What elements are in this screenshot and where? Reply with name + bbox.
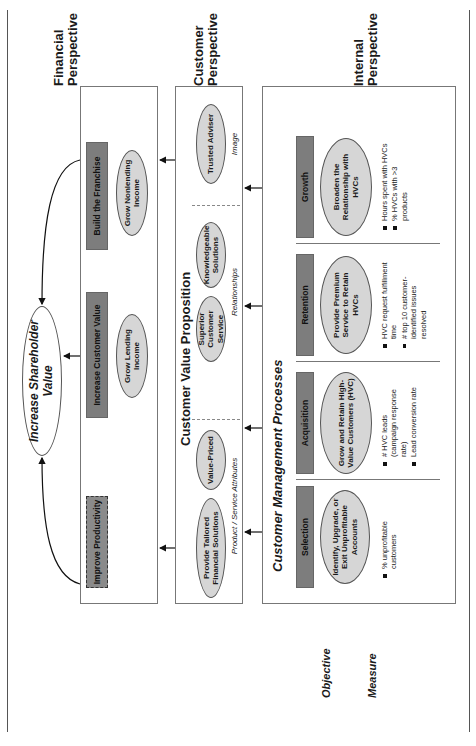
measure-item: Hours spent with HVCs [380, 138, 389, 230]
measures-selection: % unprofitable customers [380, 492, 400, 578]
group-label-image: Image [230, 112, 239, 176]
group-label-relationships: Relationships [230, 232, 239, 352]
group-divider [192, 205, 240, 206]
measure-item: HVC request fulfillment time [380, 256, 399, 348]
customer-perspective-label: Customer Perspective [192, 0, 221, 86]
measure-label: Measure [366, 653, 378, 698]
process-divider [296, 243, 440, 244]
internal-perspective-label: Internal Perspective [352, 0, 381, 86]
measure-item: % unprofitable customers [380, 492, 399, 578]
measures-growth: Hours spent with HVCs % HVCs with >3 pro… [380, 138, 410, 230]
theme-increase-customer-value: Increase Customer Value [86, 292, 108, 418]
customer-management-processes-title: Customer Management Processes [270, 360, 285, 572]
objective-identify-upgrade-exit: Identify, Upgrade, or Exit Unprofitable … [320, 490, 370, 584]
theme-improve-productivity: Improve Productivity [86, 496, 108, 588]
objective-knowledgeable-solutions: Knowledgeable Solutions [196, 222, 226, 288]
objective-grow-lending-income: Grow Lending Income [116, 314, 148, 398]
process-growth: Growth [296, 136, 314, 238]
objective-broaden-relationship: Broaden the Relationship with HVCs [320, 138, 372, 236]
objective-superior-customer-service: Superior Customer Service [196, 296, 226, 362]
customer-value-proposition-title: Customer Value Proposition [178, 272, 193, 446]
objective-label: Objective [320, 648, 332, 698]
process-retention: Retention [296, 254, 314, 356]
objective-grow-retain-hvc: Grow and Retain High-Value Customers (HV… [320, 372, 372, 474]
group-divider [192, 419, 240, 420]
measure-item: # HVC leads (campaign response rate) [380, 380, 408, 466]
objective-tailored-financial-solutions: Provide Tailored Financial Solutions [196, 498, 226, 598]
process-divider [296, 479, 440, 480]
group-label-product-service: Product / Service Attributes [230, 426, 239, 586]
shareholder-value-goal: Increase Shareholder Value [22, 306, 62, 456]
objective-grow-nonlending-income: Grow Nonlending Income [116, 150, 148, 236]
financial-perspective-label: Financial Perspective [52, 0, 81, 86]
measure-item: % HVCs with >3 products [390, 138, 409, 230]
process-selection: Selection [296, 486, 314, 588]
strategy-map: Financial Perspective Customer Perspecti… [0, 0, 476, 746]
measures-retention: HVC request fulfillment time # top 10 cu… [380, 256, 429, 348]
objective-trusted-adviser: Trusted Adviser [196, 104, 226, 184]
measures-acquisition: # HVC leads (campaign response rate) Lea… [380, 380, 420, 466]
measure-item: Lead conversion rate [409, 380, 418, 466]
measure-item: # top 10 customer-identified issues reso… [400, 256, 428, 348]
theme-build-the-franchise: Build the Franchise [86, 142, 108, 250]
process-divider [296, 361, 440, 362]
objective-premium-service: Provide Premium Service to Retain HVCs [320, 256, 372, 354]
process-acquisition: Acquisition [296, 372, 314, 474]
bottom-rule [469, 10, 470, 732]
objective-value-priced: Value-Priced [196, 430, 226, 490]
top-rule [7, 10, 8, 732]
